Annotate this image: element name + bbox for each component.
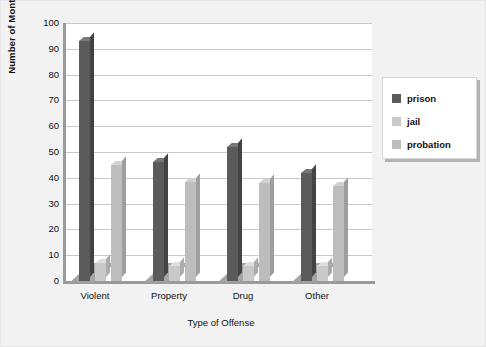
bar-probation-violent	[111, 165, 122, 281]
legend-swatch-icon	[392, 94, 401, 103]
x-axis-tick-label: Other	[277, 290, 357, 301]
y-axis-tick-label: 20	[31, 224, 59, 233]
bar-face	[227, 147, 238, 281]
y-axis-tick-label: 60	[31, 121, 59, 130]
bar-jail-drug	[243, 266, 254, 281]
bar-prison-violent	[79, 41, 90, 281]
x-axis-tick-label: Property	[129, 290, 209, 301]
bar-face	[111, 165, 122, 281]
bar-face	[95, 263, 106, 281]
bar-face	[259, 183, 270, 281]
gridline	[66, 75, 372, 76]
chart-legend: prisonjailprobation	[382, 77, 477, 159]
x-axis-title: Type of Offense	[61, 317, 381, 328]
y-axis-tick-label: 50	[31, 147, 59, 156]
y-axis-tick-label: 0	[31, 276, 59, 285]
legend-item-label: jail	[407, 116, 420, 127]
y-axis-tick-label: 90	[31, 44, 59, 53]
bar-side	[312, 164, 316, 277]
plot-area	[63, 23, 372, 281]
bar-probation-drug	[259, 183, 270, 281]
bar-probation-other	[333, 186, 344, 281]
legend-item-probation[interactable]: probation	[392, 133, 476, 156]
bar-prison-drug	[227, 147, 238, 281]
y-axis-tick-labels: 1009080706050403020100	[31, 1, 59, 301]
legend-item-label: probation	[407, 139, 451, 150]
bar-face	[301, 173, 312, 281]
bar-side	[90, 32, 94, 277]
gridline	[66, 23, 372, 24]
y-axis-tick-label: 40	[31, 173, 59, 182]
bar-face	[317, 266, 328, 281]
legend-swatch-icon	[392, 117, 401, 126]
bar-jail-property	[169, 266, 180, 281]
y-axis-tick-label: 10	[31, 250, 59, 259]
bar-face	[185, 182, 196, 281]
bar-face	[153, 162, 164, 281]
y-axis-tick-label: 30	[31, 199, 59, 208]
bar-probation-property	[185, 182, 196, 281]
x-axis-tick-label: Drug	[203, 290, 283, 301]
x-axis-tick-label: Violent	[55, 290, 135, 301]
bar-side	[122, 156, 126, 277]
gridline	[66, 152, 372, 153]
legend-item-prison[interactable]: prison	[392, 87, 476, 110]
bar-face	[169, 266, 180, 281]
bar-side	[270, 174, 274, 277]
bar-chart: Number of Months 1009080706050403020100 …	[0, 0, 486, 347]
bar-face	[243, 266, 254, 281]
y-axis-tick-label: 100	[31, 18, 59, 27]
bar-jail-violent	[95, 263, 106, 281]
bar-jail-other	[317, 266, 328, 281]
gridline	[66, 49, 372, 50]
gridline	[66, 126, 372, 127]
bar-prison-other	[301, 173, 312, 281]
legend-swatch-icon	[392, 140, 401, 149]
bar-side	[344, 177, 348, 277]
bar-side	[164, 154, 168, 277]
y-axis-tick-label: 80	[31, 70, 59, 79]
legend-item-label: prison	[407, 93, 436, 104]
bar-side	[196, 173, 200, 277]
y-axis-tick-label: 70	[31, 95, 59, 104]
bar-side	[238, 138, 242, 277]
gridline	[66, 100, 372, 101]
bar-prison-property	[153, 162, 164, 281]
legend-item-jail[interactable]: jail	[392, 110, 476, 133]
bar-face	[79, 41, 90, 281]
bar-face	[333, 186, 344, 281]
y-axis-title: Number of Months	[5, 0, 19, 96]
